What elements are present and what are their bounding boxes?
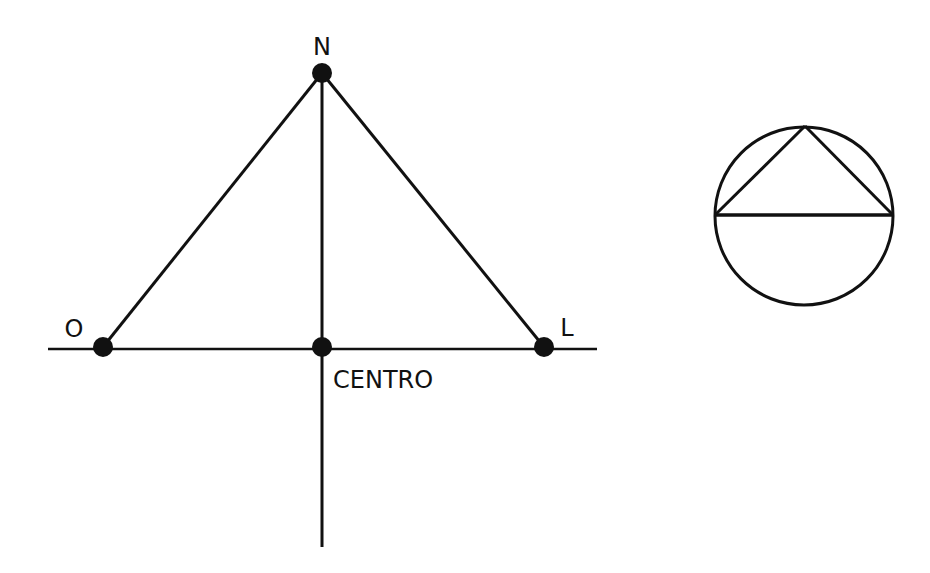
north-label: N (313, 33, 331, 61)
center-label: CENTRO (333, 366, 433, 394)
compass-diagram: N O L CENTRO (0, 0, 930, 573)
inset-circle-diagram (715, 126, 893, 305)
triangle-right-side (322, 73, 544, 347)
center-point (312, 337, 332, 357)
west-label: O (65, 315, 84, 343)
east-label: L (560, 314, 574, 342)
west-point (93, 337, 113, 357)
triangle-left-side (103, 73, 322, 347)
east-point (534, 337, 554, 357)
north-point (312, 63, 332, 83)
